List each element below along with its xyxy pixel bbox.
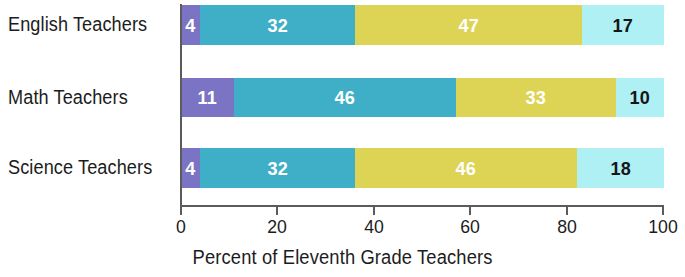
bar-segment-value: 33 bbox=[526, 88, 546, 107]
bar-segment: 10 bbox=[616, 78, 664, 117]
bar-segment-value: 17 bbox=[613, 16, 633, 35]
category-label-science: Science Teachers bbox=[8, 158, 164, 178]
bar-segment: 47 bbox=[355, 5, 582, 45]
bar-segment: 4 bbox=[181, 5, 200, 45]
bar-segment-value: 4 bbox=[186, 16, 196, 35]
bar-segment: 46 bbox=[234, 78, 456, 117]
plot-area: 4 32 47 17 11 46 33 10 bbox=[181, 0, 664, 205]
stacked-bar-chart: English Teachers Math Teachers Science T… bbox=[0, 0, 685, 277]
bar-row-math: 11 46 33 10 bbox=[181, 78, 664, 117]
bar-segment-value: 10 bbox=[630, 88, 650, 107]
x-tick-label-40: 40 bbox=[364, 217, 384, 236]
bar-segment: 4 bbox=[181, 148, 200, 188]
x-tick-mark-20 bbox=[276, 207, 278, 215]
bar-segment: 46 bbox=[355, 148, 577, 188]
bar-segment: 32 bbox=[200, 148, 355, 188]
y-axis-line bbox=[180, 4, 182, 207]
bar-segment-value: 46 bbox=[335, 88, 355, 107]
x-tick-mark-40 bbox=[373, 207, 375, 215]
bar-segment: 33 bbox=[456, 78, 615, 117]
category-label-english: English Teachers bbox=[8, 15, 164, 35]
bar-segment: 18 bbox=[577, 148, 664, 188]
bar-segment: 17 bbox=[582, 5, 664, 45]
bar-segment-value: 18 bbox=[610, 159, 630, 178]
bar-segment-value: 46 bbox=[456, 159, 476, 178]
x-tick-mark-100 bbox=[662, 207, 664, 215]
bar-segment-value: 47 bbox=[458, 16, 478, 35]
bar-row-science: 4 32 46 18 bbox=[181, 148, 664, 188]
bar-row-english: 4 32 47 17 bbox=[181, 5, 664, 45]
x-axis-title: Percent of Eleventh Grade Teachers bbox=[0, 248, 685, 268]
bar-segment: 11 bbox=[181, 78, 234, 117]
x-axis-title-text: Percent of Eleventh Grade Teachers bbox=[193, 248, 493, 268]
bar-segment: 32 bbox=[200, 5, 355, 45]
bar-segment-value: 4 bbox=[186, 159, 196, 178]
x-tick-label-80: 80 bbox=[557, 217, 577, 236]
x-tick-label-0: 0 bbox=[176, 217, 186, 236]
x-tick-mark-60 bbox=[469, 207, 471, 215]
bar-segment-value: 32 bbox=[267, 16, 287, 35]
x-axis-line bbox=[180, 205, 664, 207]
category-label-math: Math Teachers bbox=[8, 88, 164, 108]
bar-segment-value: 11 bbox=[198, 88, 217, 107]
x-tick-mark-0 bbox=[180, 207, 182, 215]
x-tick-label-60: 60 bbox=[460, 217, 480, 236]
bar-segment-value: 32 bbox=[267, 159, 287, 178]
x-tick-label-100: 100 bbox=[648, 217, 677, 236]
x-tick-mark-80 bbox=[566, 207, 568, 215]
x-tick-label-20: 20 bbox=[267, 217, 287, 236]
